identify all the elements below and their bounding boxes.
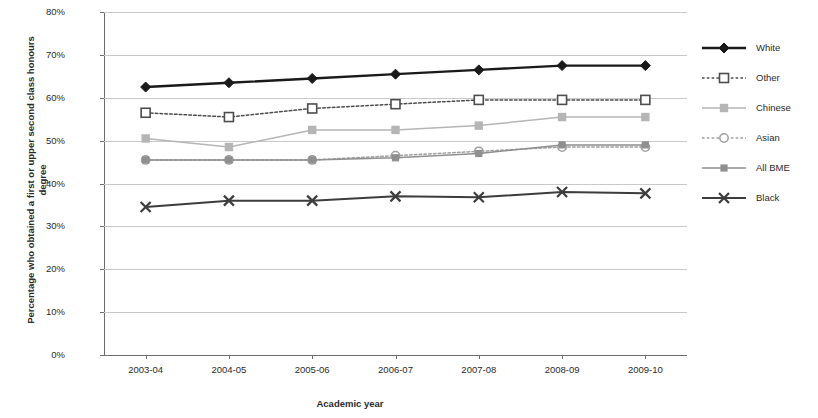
x-tick-mark [562,355,563,359]
chart-root: Percentage who obtained a first or upper… [0,0,818,418]
y-tick-label: 30% [25,221,65,231]
legend-item-white[interactable]: White [700,40,818,56]
x-tick-label: 2006-07 [361,364,431,375]
y-tick-label: 70% [25,50,65,60]
x-tick-mark [396,355,397,359]
y-tick-label: 20% [25,264,65,274]
series-layer [104,12,687,355]
legend-label: Other [756,72,780,83]
x-tick-mark [479,355,480,359]
legend-label: Black [756,192,779,203]
legend-label: White [756,42,780,53]
legend-swatch-square-small-icon [700,160,748,176]
legend-swatch-square-open-icon [700,70,748,86]
legend-item-black[interactable]: Black [700,190,818,206]
legend-item-chinese[interactable]: Chinese [700,100,818,116]
x-tick-mark [312,355,313,359]
y-tick-mark [100,355,104,356]
x-tick-label: 2008-09 [527,364,597,375]
y-tick-label: 40% [25,179,65,189]
legend-label: All BME [756,162,790,173]
y-tick-label: 80% [25,7,65,17]
legend-swatch-circle-open-icon [700,130,748,146]
legend-item-asian[interactable]: Asian [700,130,818,146]
x-tick-label: 2009-10 [610,364,680,375]
y-tick-label: 50% [25,136,65,146]
legend-swatch-square-filled-icon [700,100,748,116]
x-axis-title: Academic year [0,398,700,409]
x-tick-mark [229,355,230,359]
x-tick-label: 2005-06 [277,364,347,375]
legend-item-all-bme[interactable]: All BME [700,160,818,176]
legend-swatch-diamond-icon [700,40,748,56]
y-tick-label: 60% [25,93,65,103]
series-black [141,187,651,212]
legend-label: Asian [756,132,780,143]
y-tick-label: 0% [25,350,65,360]
x-tick-mark [645,355,646,359]
legend-label: Chinese [756,102,791,113]
x-tick-label: 2004-05 [194,364,264,375]
plot-area: 0%10%20%30%40%50%60%70%80% 2003-042004-0… [104,12,687,355]
x-tick-label: 2007-08 [444,364,514,375]
legend-item-other[interactable]: Other [700,70,818,86]
x-tick-mark [146,355,147,359]
y-tick-label: 10% [25,307,65,317]
series-white [141,61,651,92]
x-tick-label: 2003-04 [111,364,181,375]
legend-swatch-cross-icon [700,190,748,206]
